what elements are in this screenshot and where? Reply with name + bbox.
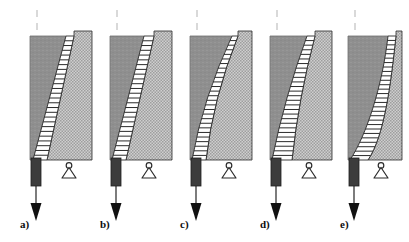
panel-label-e: e) bbox=[340, 218, 349, 231]
panel-label-d: d) bbox=[260, 218, 270, 231]
figure-container: a)b)c)d)e) bbox=[0, 0, 409, 242]
loaded-pile-column-c bbox=[191, 158, 201, 186]
failure-mechanism-figure: a)b)c)d)e) bbox=[0, 0, 409, 242]
loaded-pile-column-b bbox=[111, 158, 121, 186]
loaded-pile-column-a bbox=[31, 158, 41, 186]
panel-label-c: c) bbox=[180, 218, 189, 231]
panel-label-a: a) bbox=[20, 218, 30, 231]
loaded-pile-column-d bbox=[271, 158, 281, 186]
panel-label-b: b) bbox=[100, 218, 110, 231]
loaded-pile-column-e bbox=[349, 158, 359, 186]
